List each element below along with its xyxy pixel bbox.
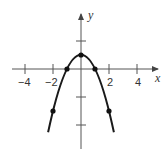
x-tick-label: −2 xyxy=(45,76,58,88)
x-tick-label: 2 xyxy=(107,76,113,88)
x-tick-label: −4 xyxy=(18,76,31,88)
x-axis-label: x xyxy=(154,71,161,85)
x-tick-label: 4 xyxy=(135,76,141,88)
parabola-graph: −4 −2 2 4 x y xyxy=(0,0,168,155)
y-axis-label: y xyxy=(87,8,94,22)
